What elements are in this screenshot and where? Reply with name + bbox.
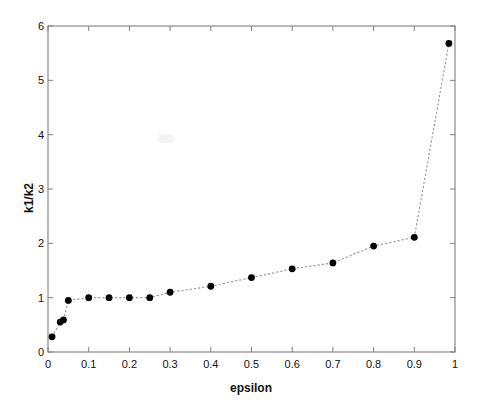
chart-figure: 00.10.20.30.40.50.60.70.80.91 0123456 ep… [0, 0, 477, 411]
x-tick-label: 0.1 [81, 358, 96, 370]
y-tick-label: 1 [26, 292, 44, 304]
axes-frame [48, 26, 455, 352]
scatter-plot-canvas [0, 0, 477, 411]
series-data-points [49, 40, 453, 340]
x-axis-title: epsilon [230, 381, 272, 395]
x-tick-label: 0.7 [325, 358, 340, 370]
y-tick-label: 5 [26, 74, 44, 86]
series-line-dotted [52, 43, 449, 336]
x-tick-label: 0.2 [122, 358, 137, 370]
x-tick-label: 0 [45, 358, 51, 370]
y-tick-label: 2 [26, 237, 44, 249]
x-axis-ticks [48, 26, 455, 352]
x-tick-label: 0.6 [285, 358, 300, 370]
x-tick-label: 0.4 [203, 358, 218, 370]
y-tick-label: 0 [26, 346, 44, 358]
y-tick-label: 6 [26, 20, 44, 32]
x-tick-label: 0.3 [162, 358, 177, 370]
x-tick-label: 0.8 [366, 358, 381, 370]
y-axis-ticks [48, 26, 455, 352]
x-tick-label: 0.5 [244, 358, 259, 370]
x-tick-label: 0.9 [407, 358, 422, 370]
y-tick-label: 4 [26, 129, 44, 141]
y-axis-title: k1/k2 [22, 183, 36, 213]
x-tick-label: 1 [452, 358, 458, 370]
